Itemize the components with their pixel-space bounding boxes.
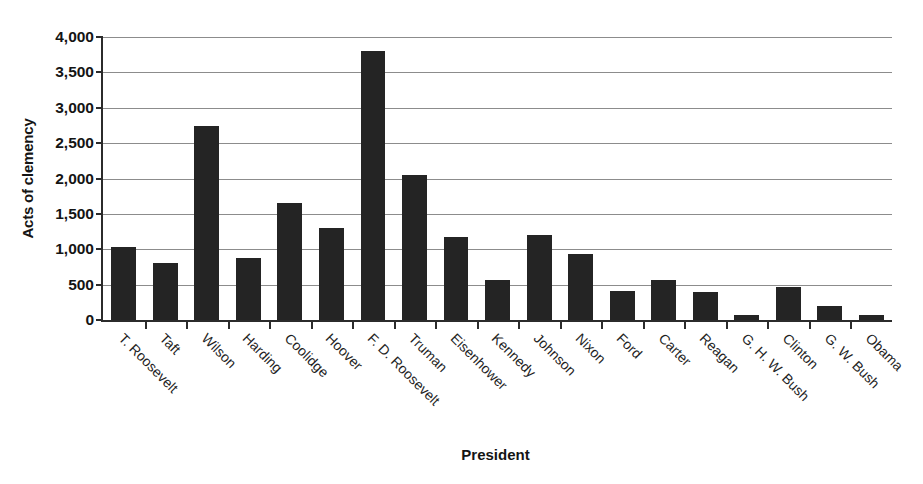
bar [734,315,759,320]
x-axis-tick-mark [726,320,728,329]
y-axis-tick-mark [96,142,103,144]
bar [194,126,219,320]
x-axis-tick-label: Ford [614,330,646,362]
y-axis-tick-label: 1,500 [8,206,94,222]
y-axis-tick-label: 2,000 [8,171,94,187]
y-axis-tick-label: 500 [8,277,94,293]
x-axis-tick-mark [850,320,852,329]
bar-slot [352,37,394,320]
x-axis-tick-label: Reagan [697,330,743,376]
bar-series [103,37,892,320]
bar [153,263,178,320]
x-axis-tick-mark [809,320,811,329]
bar [859,315,884,320]
x-axis-tick-label: Nixon [572,330,609,367]
bar-slot [394,37,436,320]
x-axis-tick-label: Johnson [531,330,580,379]
bar [111,247,136,320]
bar-slot [269,37,311,320]
bar [651,280,676,320]
bar-slot [560,37,602,320]
x-axis-tick-mark [643,320,645,329]
x-axis-tick-mark [684,320,686,329]
bar-slot [643,37,685,320]
y-axis-tick-mark [96,36,103,38]
bar [402,175,427,320]
x-axis-tick-mark [767,320,769,329]
bar-slot [311,37,353,320]
bar-slot [726,37,768,320]
y-axis-tick-mark [96,71,103,73]
bar-slot [228,37,270,320]
bar [817,306,842,320]
bar-slot [851,37,893,320]
x-axis-tick-mark [311,320,313,329]
x-axis-tick-mark [435,320,437,329]
y-axis-tick-label: 3,000 [8,100,94,116]
x-axis-tick-label: Coolidge [282,330,332,380]
bar [568,254,593,321]
bar [319,228,344,320]
bar [361,51,386,320]
bar [236,258,261,320]
x-axis-tick-mark [269,320,271,329]
x-axis-tick-label: F. D. Roosevelt [365,330,443,408]
x-axis-tick-mark [186,320,188,329]
x-axis-tick-mark [352,320,354,329]
x-axis-tick-mark [145,320,147,329]
y-axis-tick-mark [96,319,103,321]
bar-slot [477,37,519,320]
y-axis-tick-label: 1,000 [8,242,94,258]
y-axis-tick-label: 2,500 [8,135,94,151]
x-axis-tick-labels: T. RooseveltTaftWilsonHardingCoolidgeHoo… [101,330,890,440]
x-axis-tick-mark [228,320,230,329]
x-axis-tick-label: Carter [655,330,694,369]
bar [527,235,552,320]
x-axis-tick-mark [394,320,396,329]
x-axis-tick-mark [518,320,520,329]
plot-area: 05001,0001,5002,0002,5003,0003,5004,000 [101,37,892,322]
bar-slot [435,37,477,320]
x-axis-tick-label: Harding [240,330,286,376]
bar-slot [518,37,560,320]
bar-slot [145,37,187,320]
x-axis-tick-mark [560,320,562,329]
y-axis-tick-mark [96,107,103,109]
y-axis-tick-mark [96,213,103,215]
x-axis-title: President [101,446,890,463]
x-axis-tick-label: Taft [157,330,184,357]
x-axis-tick-mark [477,320,479,329]
bar-chart: Acts of clemency 05001,0001,5002,0002,50… [0,0,923,484]
bar-slot [809,37,851,320]
y-axis-tick-label: 4,000 [8,29,94,45]
x-axis-tick-label: Wilson [198,330,239,371]
bar [485,280,510,320]
y-axis-tick-label: 0 [8,312,94,328]
bar-slot [103,37,145,320]
bar [693,292,718,320]
bar-slot [684,37,726,320]
bar [277,203,302,320]
bar-slot [768,37,810,320]
bar-slot [601,37,643,320]
bar [776,287,801,320]
y-axis-tick-mark [96,178,103,180]
bar-slot [186,37,228,320]
y-axis-tick-label: 3,500 [8,65,94,81]
x-axis-tick-mark [601,320,603,329]
bar [444,237,469,320]
y-axis-tick-mark [96,284,103,286]
y-axis-tick-mark [96,248,103,250]
bar [610,291,635,320]
